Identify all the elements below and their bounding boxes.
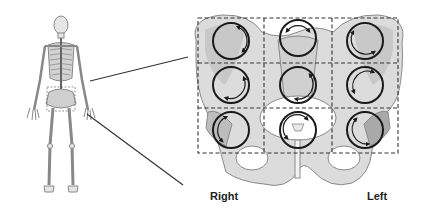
label-left-side: Left [367,190,387,202]
diagram-canvas [0,0,430,211]
zoom-connector-lines [87,57,188,185]
pelvis-icon [195,15,403,186]
label-right-side: Right [210,190,238,202]
skeleton-icon [27,16,95,192]
